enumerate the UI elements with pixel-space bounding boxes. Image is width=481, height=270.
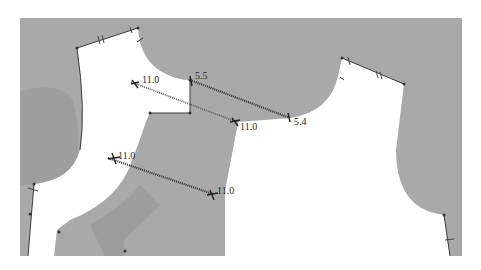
measurement-1-end-label: 11.0 xyxy=(240,121,257,132)
measurement-3-start-label: 11.0 xyxy=(118,150,135,161)
measurement-3-end-label: 11.0 xyxy=(217,185,234,196)
measurement-1-start-label: 11.0 xyxy=(142,74,159,85)
measurement-2-end-label: 5.4 xyxy=(294,116,307,127)
pattern-canvas[interactable]: 11.0 11.0 5.5 5.4 11.0 11.0 xyxy=(0,0,481,270)
measurement-2-start-label: 5.5 xyxy=(195,70,208,81)
